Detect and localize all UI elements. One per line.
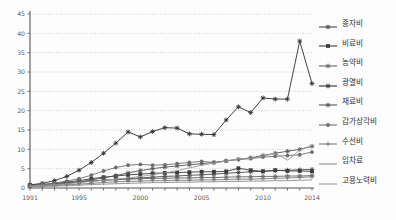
series-line-3 (28, 39, 315, 188)
legend-label: 재료비 (342, 92, 363, 112)
legend-item-4[interactable]: 재료비 (318, 92, 396, 112)
svg-text:45: 45 (17, 10, 25, 17)
chart-legend: 종자비비료비농약비광열비재료비감가상각비수선비임차료고용노력비 (318, 14, 396, 190)
svg-text:2000: 2000 (132, 194, 148, 201)
line-chart: 051015202530354045 199119952000200520102… (0, 0, 396, 220)
legend-label: 농약비 (342, 53, 363, 73)
legend-marker-icon (318, 135, 338, 147)
legend-marker-icon (318, 175, 338, 187)
svg-text:35: 35 (17, 49, 25, 56)
svg-text:10: 10 (17, 146, 25, 153)
legend-marker-icon (318, 18, 338, 30)
y-axis-tick-labels: 051015202530354045 (17, 10, 30, 191)
svg-text:2005: 2005 (194, 194, 210, 201)
svg-text:15: 15 (17, 126, 25, 133)
legend-marker-icon (318, 155, 338, 167)
legend-marker-icon (318, 116, 338, 128)
svg-text:40: 40 (17, 30, 25, 37)
legend-item-0[interactable]: 종자비 (318, 14, 396, 34)
legend-marker-icon (318, 57, 338, 69)
svg-text:1991: 1991 (22, 194, 38, 201)
svg-text:1995: 1995 (71, 194, 87, 201)
x-axis-tick-labels: 199119952000200520102014 (22, 194, 320, 201)
legend-label: 종자비 (342, 14, 363, 34)
legend-label: 비료비 (342, 34, 363, 54)
legend-label: 임차료 (342, 151, 363, 171)
legend-marker-icon (318, 96, 338, 108)
legend-label: 광열비 (342, 73, 363, 93)
legend-marker-icon (318, 37, 338, 49)
legend-label: 수선비 (342, 132, 363, 152)
legend-item-1[interactable]: 비료비 (318, 34, 396, 54)
x-axis (30, 188, 314, 191)
svg-text:0: 0 (21, 184, 25, 191)
svg-text:30: 30 (17, 68, 25, 75)
svg-text:25: 25 (17, 88, 25, 95)
legend-item-7[interactable]: 임차료 (318, 151, 396, 171)
legend-item-3[interactable]: 광열비 (318, 73, 396, 93)
data-series-group (28, 39, 315, 189)
legend-label: 감가상각비 (342, 112, 377, 132)
svg-text:5: 5 (21, 165, 25, 172)
svg-text:20: 20 (17, 107, 25, 114)
legend-label: 고용노력비 (342, 171, 377, 191)
legend-item-8[interactable]: 고용노력비 (318, 171, 396, 191)
svg-text:2010: 2010 (255, 194, 271, 201)
legend-marker-icon (318, 77, 338, 89)
grid-lines (30, 14, 312, 169)
legend-item-6[interactable]: 수선비 (318, 132, 396, 152)
legend-item-2[interactable]: 농약비 (318, 53, 396, 73)
legend-item-5[interactable]: 감가상각비 (318, 112, 396, 132)
svg-text:2014: 2014 (304, 194, 320, 201)
